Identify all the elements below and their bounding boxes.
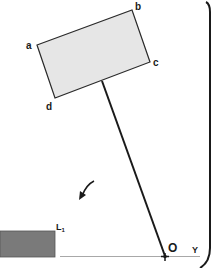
pendulum-rod [102,81,165,256]
corner-label-d: d [46,101,52,112]
corner-label-c: c [153,57,159,68]
block-l1 [0,231,55,257]
rectangular-plate [37,10,150,98]
block-label-subscript: 1 [62,227,66,233]
rotation-arrow-icon [79,181,94,200]
axis-label-y: Y [192,245,198,255]
right-bracket [200,2,210,268]
corner-label-a: a [26,40,32,51]
block-label: L1 [56,222,66,233]
pivot-label-o: O [168,241,177,255]
pendulum-diagram: a b c d O Y L1 [0,0,215,268]
corner-label-b: b [135,1,141,12]
